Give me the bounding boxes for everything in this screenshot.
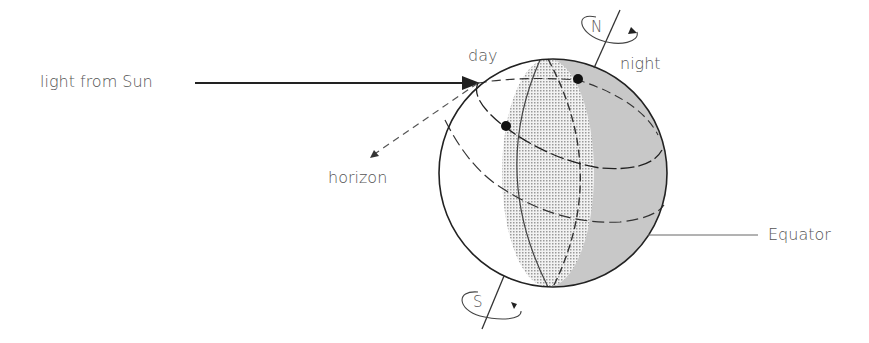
south-pole-label: S [473,295,483,310]
earth-diagram [0,0,869,343]
day-label: day [468,48,497,64]
terminator-region [502,59,594,287]
earth-sphere [439,55,673,295]
night-label: night [620,56,661,72]
horizon-label: horizon [328,170,387,186]
observer-dot-day [501,121,511,131]
equator-label: Equator [768,227,831,243]
observer-dot-night [573,74,583,84]
south-axis [462,276,521,329]
sunlight-arrow [195,76,480,90]
light-from-sun-label: light from Sun [40,74,153,90]
north-pole-label: N [591,20,602,35]
